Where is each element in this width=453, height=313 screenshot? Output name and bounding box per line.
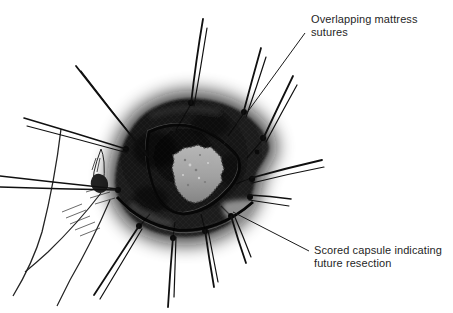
hatching-strokes [62, 186, 115, 236]
annotation-scored-capsule: Scored capsule indicating future resecti… [314, 244, 450, 270]
annotation-overlapping-mattress-sutures: Overlapping mattress sutures [311, 13, 427, 39]
medical-figure: Overlapping mattress sutures Scored caps… [0, 0, 453, 313]
leader-line-bottom [233, 212, 309, 251]
hilum-vessel-sketch [13, 129, 115, 306]
